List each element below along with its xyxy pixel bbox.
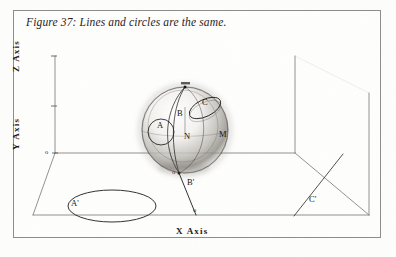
- label-A-prime: A': [71, 198, 79, 208]
- pole-top-bar: [181, 82, 190, 84]
- label-B: B: [177, 108, 183, 118]
- perspective-edge-top: [295, 56, 369, 93]
- origin-mark-x: o: [193, 206, 196, 213]
- line-C-prime: [294, 154, 343, 216]
- diagram-scene: Z Axis Y Axis X Axis o o o A B C N M A' …: [13, 10, 381, 238]
- z-axis-label: Z Axis: [11, 40, 21, 72]
- label-A: A: [157, 120, 163, 130]
- label-M: M: [219, 129, 227, 139]
- perspective-edge-right: [295, 153, 369, 215]
- diagram-svg: [13, 10, 381, 238]
- ellipse-A-prime: [68, 190, 156, 222]
- ground-left-edge: [33, 153, 55, 215]
- label-C: C: [202, 97, 208, 107]
- label-B-prime: B': [187, 177, 194, 187]
- origin-mark-sphere: o: [172, 168, 175, 175]
- label-N: N: [184, 131, 190, 141]
- label-C-prime: C': [309, 194, 316, 204]
- sphere-ground-shadow: [157, 162, 209, 174]
- pole-top-dot: [184, 86, 187, 89]
- z-axis-ticks: [51, 56, 57, 106]
- origin-mark-y: o: [45, 148, 48, 155]
- y-axis-label: Y Axis: [11, 118, 21, 150]
- x-axis-label: X Axis: [176, 226, 208, 236]
- figure-root: Figure 37: Lines and circles are the sam…: [0, 0, 396, 257]
